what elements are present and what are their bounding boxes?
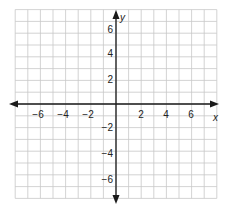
y-tick-label: 2 xyxy=(107,74,113,85)
y-tick-label: 4 xyxy=(107,48,113,59)
coordinate-plane: x y −6 −4 −2 2 4 6 6 4 2 −2 −4 −6 xyxy=(0,0,226,213)
y-tick-label: −2 xyxy=(102,122,114,133)
x-tick-label: −6 xyxy=(32,109,44,120)
x-axis-left-arrow-icon xyxy=(9,101,18,108)
y-tick-label: 6 xyxy=(107,24,113,35)
y-axis-label: y xyxy=(119,12,126,23)
y-tick-label: −4 xyxy=(102,148,114,159)
x-tick-label: 6 xyxy=(188,109,194,120)
y-tick-label: −6 xyxy=(102,174,114,185)
x-tick-label: −4 xyxy=(57,109,69,120)
x-tick-labels: −6 −4 −2 2 4 6 xyxy=(32,109,194,120)
x-tick-label: 2 xyxy=(138,109,144,120)
y-axis-down-arrow-icon xyxy=(113,195,120,204)
x-tick-label: 4 xyxy=(163,109,169,120)
x-tick-label: −2 xyxy=(82,109,94,120)
x-axis-right-arrow-icon xyxy=(210,101,219,108)
y-axis-up-arrow-icon xyxy=(113,10,120,19)
x-axis-label: x xyxy=(212,112,219,123)
